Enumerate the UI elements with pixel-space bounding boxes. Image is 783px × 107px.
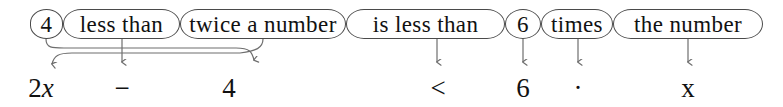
expression-token-multiplication-dot: · <box>562 72 594 105</box>
expression-row: 2x − 4 < 6 · x <box>0 72 783 107</box>
expression-token-x: x <box>672 72 704 105</box>
phrase-bubble-the-number[interactable]: the number <box>613 9 763 39</box>
expression-token-minus: − <box>100 72 144 105</box>
expression-token-less-than-sign: < <box>422 72 454 105</box>
phrase-bubble-twice-a-number[interactable]: twice a number <box>180 9 346 39</box>
phrase-bubble-6[interactable]: 6 <box>505 9 541 39</box>
phrase-bubble-is-less-than[interactable]: is less than <box>346 9 505 39</box>
variable-x: x <box>42 73 54 103</box>
phrase-bubble-times[interactable]: times <box>541 9 613 39</box>
coefficient-2: 2 <box>28 73 42 103</box>
phrase-row: 4 less than twice a number is less than … <box>0 0 783 46</box>
expression-token-6: 6 <box>507 72 539 105</box>
translation-diagram: 4 less than twice a number is less than … <box>0 0 783 107</box>
expression-token-4: 4 <box>213 72 245 105</box>
phrase-bubble-4[interactable]: 4 <box>30 9 63 39</box>
phrase-bubble-less-than[interactable]: less than <box>63 9 180 39</box>
expression-token-2x: 2x <box>18 72 64 105</box>
